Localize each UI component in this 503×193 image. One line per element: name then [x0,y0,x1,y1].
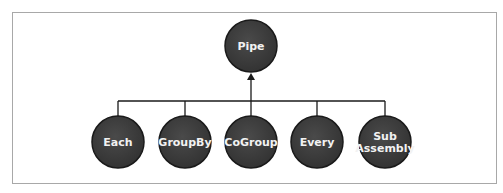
class-hierarchy-diagram: Pipe EachGroupByCoGroupEverySubAssembly [0,0,503,193]
node-label: CoGroup [224,136,277,149]
node-groupby: GroupBy [158,116,211,168]
node-label: Assembly [355,142,414,155]
node-label: Each [103,136,132,149]
node-each: Each [92,116,144,168]
node-label: Every [300,136,335,149]
node-label: GroupBy [158,136,211,149]
node-pipe: Pipe [225,20,277,72]
node-label: Pipe [237,40,264,53]
node-every: Every [291,116,343,168]
node-cogroup: CoGroup [224,116,277,168]
